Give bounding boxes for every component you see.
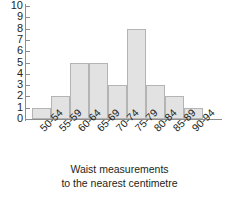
y-axis-tick-label: 3: [0, 79, 23, 90]
y-axis-tick-label: 9: [0, 11, 23, 22]
y-axis-tick-label: 8: [0, 23, 23, 34]
y-axis-tick-label-text: 0: [1, 113, 23, 124]
y-axis-tick-label-text: 10: [1, 0, 23, 11]
y-axis-tick-label-text: 6: [1, 45, 23, 56]
y-axis-tick-label: 10: [0, 0, 23, 11]
caption-line-1: Waist measurements: [0, 162, 239, 176]
y-axis-tick-label: 1: [0, 102, 23, 113]
bar: [127, 29, 146, 119]
y-axis-tick-label-text: 3: [1, 79, 23, 90]
y-axis-tick-label-text: 2: [1, 90, 23, 101]
y-axis-tick-label-text: 8: [1, 23, 23, 34]
y-axis-tick-label: 7: [0, 34, 23, 45]
y-axis-tick-label-text: 9: [1, 11, 23, 22]
y-axis-tick-label-text: 1: [1, 102, 23, 113]
y-axis-tick-label: 0: [0, 113, 23, 124]
y-axis-tick-label: 4: [0, 68, 23, 79]
y-axis-tick-label-text: 5: [1, 57, 23, 68]
caption-line-2: to the nearest centimetre: [0, 176, 239, 190]
bar-series: [26, 6, 222, 119]
plot-area: [26, 6, 222, 119]
histogram-chart: 012345678910 50-5455-5960-6465-6970-7475…: [0, 0, 239, 197]
y-axis-tick-label: 5: [0, 57, 23, 68]
y-axis-tick-label-text: 7: [1, 34, 23, 45]
y-axis-tick-label: 6: [0, 45, 23, 56]
axis-caption: Waist measurements to the nearest centim…: [0, 162, 239, 190]
y-axis-tick-label: 2: [0, 90, 23, 101]
y-axis-tick-label-text: 4: [1, 68, 23, 79]
x-axis-labels: 50-5455-5960-6465-6970-7475-7980-8485-89…: [26, 120, 222, 162]
